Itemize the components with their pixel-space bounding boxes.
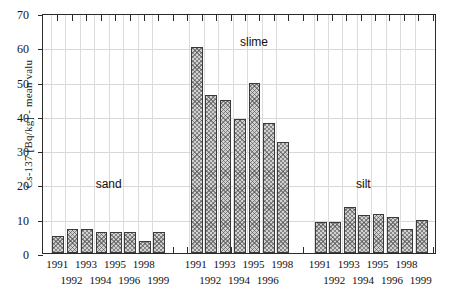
x-axis-top-tick [433,15,434,21]
bar [329,222,341,253]
x-axis-tick-label: 1998 [271,258,293,270]
y-axis-tick-label: 60 [17,42,29,57]
x-axis-top-tick [144,15,145,21]
y-axis-tick: 0 [38,255,43,256]
x-gridline [51,15,52,253]
x-axis-tick-label: 1999 [410,274,432,286]
x-axis-tick-label: 1993 [75,258,97,270]
y-axis-tick-label: 30 [17,145,29,160]
x-axis-tick-label: 1995 [242,258,264,270]
x-axis-top-tick [130,15,131,21]
x-axis-top-tick [57,15,58,21]
bar [110,232,122,253]
x-axis-tick-label: 1992 [323,274,345,286]
y-axis-tick: 30 [38,152,43,153]
x-axis-bottom-tick [187,247,188,253]
x-axis-tick-label: 1992 [61,274,83,286]
bar [358,215,370,253]
y-axis-tick-label: 40 [17,111,29,126]
x-axis-tick-label: 1998 [133,258,155,270]
y-gridline [43,49,435,50]
bar [249,83,261,253]
plot-area: 010203040506070 sandslimesilt [42,14,436,254]
y-axis-tick: 60 [38,49,43,50]
x-axis-tick-label: 1993 [338,258,360,270]
x-axis-tick-label: 1996 [257,274,279,286]
x-axis-bottom-tick [173,247,174,253]
x-axis-tick-label: 1998 [395,258,417,270]
y-gridline [43,84,435,85]
bar [263,123,275,253]
x-gridline [80,15,81,253]
x-gridline [138,15,139,253]
x-gridline [65,15,66,253]
x-axis-tick-label: 1992 [199,274,221,286]
x-axis-top-tick [375,15,376,21]
x-axis-top-tick [173,15,174,21]
x-axis-top-tick [86,15,87,21]
x-gridline [152,15,153,253]
x-axis-top-tick [317,15,318,21]
x-axis-top-tick [202,15,203,21]
bar [344,207,356,253]
y-axis-tick-label: 70 [17,8,29,23]
x-axis-top-tick [274,15,275,21]
y-axis-tick: 50 [38,84,43,85]
y-axis-tick: 20 [38,186,43,187]
x-axis-top-tick [72,15,73,21]
bar [96,232,108,253]
bar [52,236,64,253]
y-axis-tick-label: 20 [17,179,29,194]
bar [401,229,413,253]
x-axis-top-tick [346,15,347,21]
x-axis-top-tick [187,15,188,21]
x-axis-bottom-tick [433,247,434,253]
bar [191,47,203,253]
x-axis-top-tick [245,15,246,21]
bar [124,232,136,253]
bar [81,229,93,253]
x-axis-tick-label: 1995 [104,258,126,270]
y-axis-tick-label: 10 [17,214,29,229]
x-axis-top-tick [158,15,159,21]
x-axis-top-tick [418,15,419,21]
y-axis-tick-label: 0 [23,248,29,263]
x-axis-top-tick [288,15,289,21]
x-axis-tick-label: 1993 [214,258,236,270]
group-annotation-silt: silt [356,177,371,191]
x-gridline [328,15,329,253]
group-annotation-slime: slime [240,35,268,49]
bar [139,241,151,253]
x-gridline [94,15,95,253]
x-gridline [314,15,315,253]
x-axis-top-tick [216,15,217,21]
x-axis-top-tick [332,15,333,21]
x-gridline [415,15,416,253]
bar [220,100,232,253]
x-gridline [109,15,110,253]
bar [234,119,246,253]
bar [67,229,79,253]
x-axis-tick-label: 1991 [309,258,331,270]
x-axis-top-tick [404,15,405,21]
bar [205,95,217,253]
bar [373,214,385,253]
x-axis-top-tick [303,15,304,21]
bar [153,232,165,253]
x-axis-tick-label: 1996 [381,274,403,286]
x-axis-tick-label: 1995 [367,258,389,270]
bar [387,217,399,253]
x-axis-tick-label: 1994 [89,274,111,286]
x-axis-tick-label: 1991 [46,258,68,270]
x-axis-top-tick [101,15,102,21]
y-axis-tick: 40 [38,118,43,119]
x-axis-top-tick [231,15,232,21]
x-axis-tick-label: 1999 [147,274,169,286]
x-axis-top-tick [361,15,362,21]
x-gridline [400,15,401,253]
x-axis-tick-label: 1996 [118,274,140,286]
bar [416,220,428,253]
y-axis-tick-label: 50 [17,77,29,92]
x-axis-top-tick [389,15,390,21]
x-axis-tick-label: 1991 [185,258,207,270]
